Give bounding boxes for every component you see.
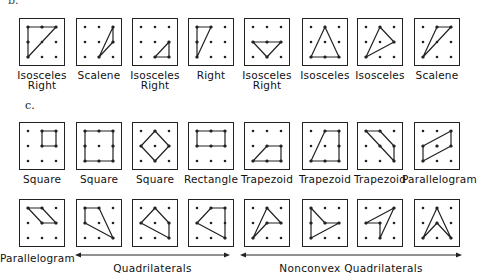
geoboard-figure [188, 199, 234, 247]
geoboard-figure: Trapezoid [357, 122, 403, 170]
geoboard-shape-icon [245, 19, 289, 65]
figure-label: Parallelogram [402, 174, 472, 184]
geoboard-shape-icon [189, 200, 233, 246]
geoboard-shape-icon [189, 19, 233, 65]
geoboard-figure: Square [132, 122, 178, 170]
geoboard-shape-icon [77, 200, 121, 246]
geoboard-figure [302, 199, 348, 247]
geoboard-figure: Square [19, 122, 65, 170]
geoboard-figure [76, 199, 122, 247]
geoboard-figure: Isosceles [302, 18, 348, 66]
geoboard-shape-icon [415, 123, 459, 169]
geoboard-shape-icon [358, 123, 402, 169]
geoboard-box [302, 18, 348, 66]
section-c-label: c. [25, 99, 35, 112]
geoboard-figure: Isosceles [357, 18, 403, 66]
section-b-label: b. [8, 0, 19, 7]
geoboard-box [19, 199, 65, 247]
geoboard-box [76, 199, 122, 247]
geoboard-box [414, 199, 460, 247]
geoboard-box [132, 18, 178, 66]
geoboard-shape-icon [415, 200, 459, 246]
geoboard-box [302, 199, 348, 247]
geoboard-figure: Trapezoid [302, 122, 348, 170]
quadrilaterals-arrow [75, 250, 230, 260]
figure-label-line: Scalene [402, 70, 472, 80]
geoboard-shape-icon [20, 19, 64, 65]
figure-label-line: Right [232, 80, 302, 90]
geoboard-shape-icon [189, 123, 233, 169]
geoboard-shape-icon [303, 200, 347, 246]
figure-label: Scalene [402, 70, 472, 80]
geoboard-box [357, 199, 403, 247]
nonconvex-arrow [240, 250, 462, 260]
geoboard-box [76, 18, 122, 66]
quadrilaterals-label: Quadrilaterals [75, 262, 230, 274]
figure-label-line: Right [120, 80, 190, 90]
geoboard-box [244, 199, 290, 247]
parallelogram-label: Parallelogram [0, 253, 70, 263]
geoboard-figure: Scalene [414, 18, 460, 66]
geoboard-box [132, 122, 178, 170]
geoboard-shape-icon [77, 123, 121, 169]
geoboard-box [188, 122, 234, 170]
geoboard-box [188, 199, 234, 247]
geoboard-box [357, 18, 403, 66]
geoboard-shape-icon [133, 200, 177, 246]
figure-label-line: Right [7, 80, 77, 90]
geoboard-shape-icon [245, 123, 289, 169]
geoboard-shape-icon [358, 19, 402, 65]
geoboard-figure: IsoscelesRight [19, 18, 65, 66]
geoboard-figure [19, 199, 65, 247]
geoboard-box [244, 18, 290, 66]
geoboard-figure: IsoscelesRight [132, 18, 178, 66]
geoboard-shape-icon [133, 19, 177, 65]
geoboard-shape-icon [20, 200, 64, 246]
geoboard-figure: Trapezoid [244, 122, 290, 170]
geoboard-figure: Scalene [76, 18, 122, 66]
geoboard-box [188, 18, 234, 66]
geoboard-box [414, 18, 460, 66]
geoboard-shape-icon [77, 19, 121, 65]
geoboard-figure [132, 199, 178, 247]
geoboard-figure: Parallelogram [414, 122, 460, 170]
geoboard-shape-icon [415, 19, 459, 65]
geoboard-figure: Square [76, 122, 122, 170]
geoboard-figure: Rectangle [188, 122, 234, 170]
geoboard-shape-icon [133, 123, 177, 169]
geoboard-box [76, 122, 122, 170]
geoboard-box [132, 199, 178, 247]
geoboard-figure [414, 199, 460, 247]
geoboard-box [19, 18, 65, 66]
geoboard-shape-icon [20, 123, 64, 169]
geoboard-box [244, 122, 290, 170]
geoboard-shape-icon [358, 200, 402, 246]
figure-label-line: Parallelogram [402, 174, 472, 184]
nonconvex-quadrilaterals-label: Nonconvex Quadrilaterals [240, 262, 462, 274]
geoboard-figure: IsoscelesRight [244, 18, 290, 66]
geoboard-box [302, 122, 348, 170]
geoboard-figure: Right [188, 18, 234, 66]
geoboard-figure [244, 199, 290, 247]
geoboard-box [357, 122, 403, 170]
geoboard-shape-icon [245, 200, 289, 246]
geoboard-shape-icon [303, 19, 347, 65]
geoboard-figure [357, 199, 403, 247]
geoboard-shape-icon [303, 123, 347, 169]
geoboard-box [414, 122, 460, 170]
geoboard-box [19, 122, 65, 170]
